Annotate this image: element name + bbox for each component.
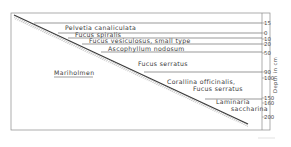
zone-label: Pelvetia canaliculata [65,24,136,31]
depth-axis-title: Depth in cm [272,57,279,93]
depth-tick-label: 200 [264,114,275,120]
zone-label: Fucus serratus [138,60,188,67]
zone-label: Fucus vesiculosus, small type [89,37,191,45]
depth-tick-label: 160 [264,100,275,106]
diagram-frame [11,13,270,130]
zonation-diagram: Pelvetia canaliculataFucus spiralisFucus… [0,0,291,147]
shore-hatching [14,16,248,127]
depth-tick-label: 50 [264,50,271,56]
depth-tick-label: 20 [264,41,271,47]
zone-label: Ascophyllum nodosum [108,45,185,53]
shore-profile-line [14,15,248,124]
site-label: Mariholmen [54,69,95,76]
zone-labels: Pelvetia canaliculataFucus spiralisFucus… [65,24,268,112]
zone-label: saccharina [231,105,268,112]
zone-label: Fucus serratus [193,85,243,92]
zone-label: Laminaria [216,98,250,105]
zone-label: Corallina officinalis, [167,78,235,85]
depth-tick-label: 15 [264,20,271,26]
